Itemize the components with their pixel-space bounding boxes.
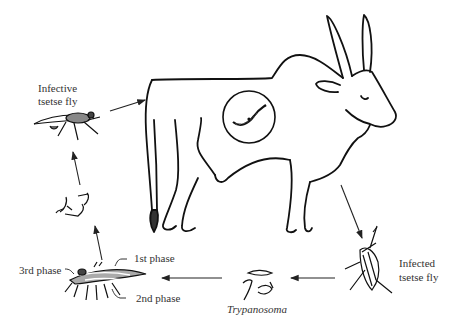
tsetse-fly-phases-illustration xyxy=(65,262,146,300)
trypanosome-inset xyxy=(223,91,275,143)
infected-tsetse-fly-illustration xyxy=(345,226,392,293)
life-cycle-diagram xyxy=(0,0,453,331)
trypanosoma-illustration xyxy=(243,270,273,300)
label-infected-fly-2: tsetse fly xyxy=(399,271,438,284)
label-phase-3: 3rd phase xyxy=(19,264,61,277)
label-infective-fly-2: tsetse fly xyxy=(38,95,77,108)
label-trypanosoma: Trypanosoma xyxy=(227,303,287,316)
infective-forms-illustration xyxy=(56,193,88,216)
infective-tsetse-fly-illustration xyxy=(34,112,100,140)
cycle-arrows xyxy=(73,100,362,278)
label-phase-1: 1st phase xyxy=(134,252,175,265)
label-phase-2: 2nd phase xyxy=(136,292,180,305)
label-infective-fly-1: Infective xyxy=(38,82,77,95)
label-infected-fly-1: Infected xyxy=(399,257,435,270)
cattle-illustration xyxy=(146,15,396,232)
